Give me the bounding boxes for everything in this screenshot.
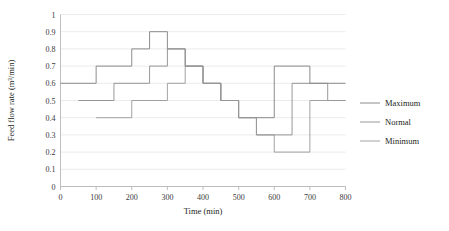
- feed-flow-rate-step-chart: 00.10.20.30.40.50.60.70.80.9101002003004…: [0, 0, 449, 231]
- chart-container: 00.10.20.30.40.50.60.70.80.9101002003004…: [0, 0, 449, 231]
- x-axis-title: Time (min): [184, 206, 223, 216]
- y-tick-label: 0.4: [46, 114, 56, 123]
- x-tick-label: 700: [304, 193, 316, 202]
- legend-label-normal: Normal: [385, 117, 412, 127]
- y-tick-label: 0.5: [46, 97, 56, 106]
- x-tick-label: 800: [340, 193, 352, 202]
- series-line-normal: [78, 49, 345, 135]
- y-tick-label: 0.9: [46, 28, 56, 37]
- y-tick-label: 0: [52, 183, 56, 192]
- x-tick-label: 300: [161, 193, 173, 202]
- x-tick-label: 400: [197, 193, 209, 202]
- y-tick-label: 0.8: [46, 45, 56, 54]
- x-tick-label: 500: [233, 193, 245, 202]
- y-tick-label: 0.7: [46, 62, 56, 71]
- y-tick-label: 0.2: [46, 148, 56, 157]
- x-tick-label: 600: [268, 193, 280, 202]
- y-tick-label: 0.6: [46, 79, 56, 88]
- y-tick-label: 1: [52, 11, 56, 20]
- x-tick-label: 0: [59, 193, 63, 202]
- series-line-minimum: [96, 66, 345, 152]
- x-tick-label: 100: [90, 193, 102, 202]
- legend-label-minimum: Minimum: [385, 136, 419, 146]
- x-tick-label: 200: [126, 193, 138, 202]
- y-tick-label: 0.3: [46, 131, 56, 140]
- y-tick-label: 0.1: [46, 165, 56, 174]
- legend-label-maximum: Maximum: [385, 98, 421, 108]
- y-axis-title: Feed flow rate (m³/min): [6, 60, 16, 142]
